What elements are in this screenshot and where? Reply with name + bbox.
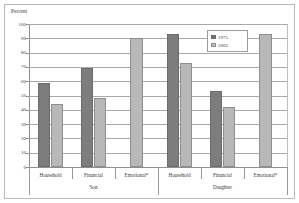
category-separator <box>158 167 159 195</box>
y-tick-label: 50 <box>10 93 26 98</box>
category-separator <box>201 167 202 179</box>
gridline <box>29 81 287 82</box>
y-tick-label: 90 <box>10 36 26 41</box>
y-tick-label: 0 <box>10 165 26 170</box>
bar-1975-household-3 <box>167 34 180 167</box>
legend-item-1975: 1975 <box>211 33 245 41</box>
legend-swatch-2002-icon <box>211 43 216 48</box>
bar-2002-emotional-2 <box>130 38 143 167</box>
y-tick-label: 70 <box>10 64 26 69</box>
y-tick-label: 40 <box>10 107 26 112</box>
y-tick-label: 80 <box>10 50 26 55</box>
gridline <box>29 67 287 68</box>
plot-area <box>29 24 287 167</box>
bar-2002-household-0 <box>51 104 64 167</box>
gridline <box>29 24 287 25</box>
gridline <box>29 38 287 39</box>
x-group-label-daughter: Daughter <box>158 185 287 190</box>
gridline <box>29 53 287 54</box>
y-tick-label: 100 <box>10 22 26 27</box>
bar-2002-household-3 <box>180 63 193 167</box>
bar-1975-household-0 <box>38 83 51 167</box>
bar-chart: Percent 1009080706050403020100 Household… <box>0 0 299 203</box>
x-group-label-son: Son <box>29 185 158 190</box>
gridline <box>29 124 287 125</box>
chart-legend: 1975 2002 <box>207 30 248 52</box>
plot-right-edge <box>287 24 288 168</box>
category-separator <box>287 167 288 195</box>
category-separator <box>115 167 116 179</box>
y-tick-label: 20 <box>10 136 26 141</box>
y-tick-label: 10 <box>10 150 26 155</box>
bar-2002-emotional-5 <box>259 34 272 167</box>
bar-2002-financial-4 <box>223 107 236 167</box>
legend-label-1975: 1975 <box>218 35 228 40</box>
x-category-label: Emotional* <box>244 173 287 178</box>
gridline <box>29 138 287 139</box>
bar-1975-financial-4 <box>210 91 223 167</box>
bar-2002-financial-1 <box>94 98 107 167</box>
legend-item-2002: 2002 <box>211 41 245 49</box>
gridline <box>29 96 287 97</box>
category-separator <box>29 167 30 195</box>
x-category-label: Household <box>158 173 201 178</box>
gridline <box>29 110 287 111</box>
x-category-label: Financial <box>201 173 244 178</box>
x-category-label: Emotional* <box>115 173 158 178</box>
bar-1975-financial-1 <box>81 68 94 167</box>
y-axis-title: Percent <box>11 8 27 14</box>
legend-label-2002: 2002 <box>218 43 228 48</box>
y-tick-label: 60 <box>10 79 26 84</box>
gridline <box>29 153 287 154</box>
category-separator <box>244 167 245 179</box>
legend-swatch-1975-icon <box>211 35 216 40</box>
category-separator <box>72 167 73 179</box>
y-tick-label: 30 <box>10 122 26 127</box>
x-category-label: Household <box>29 173 72 178</box>
x-category-label: Financial <box>72 173 115 178</box>
